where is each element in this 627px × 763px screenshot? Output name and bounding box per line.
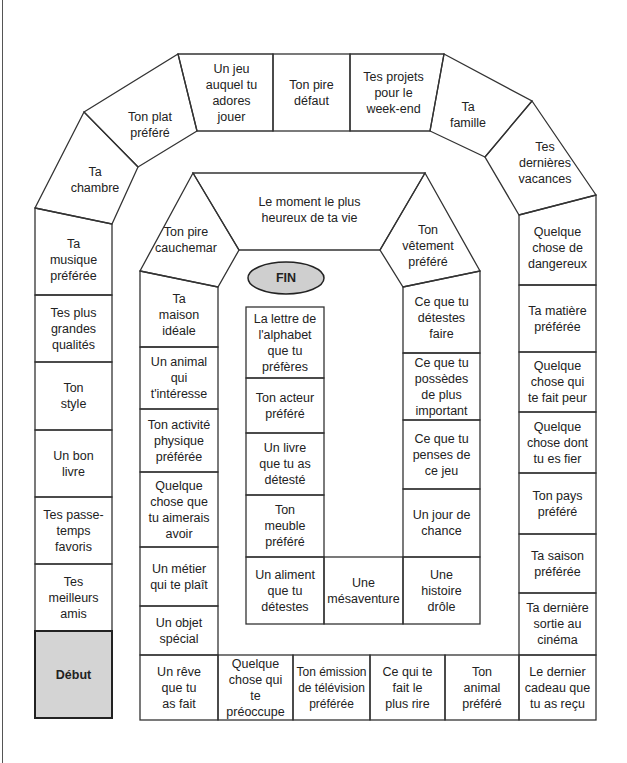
space-possedes: Ce que tu possèdes de plus important — [403, 353, 480, 420]
space-meuble: Ton meuble préféré — [246, 495, 324, 557]
space-label: Le dernier cadeau que tu as reçu — [523, 664, 593, 712]
space-label: Ton pire défaut — [282, 77, 342, 109]
space-label: Un bon livre — [46, 448, 101, 480]
space-plat: Ton plat préféré — [115, 100, 185, 150]
space-label: Quelque chose que tu aimerais avoir — [146, 478, 212, 542]
space-label: Un jour de chance — [409, 507, 475, 539]
space-metier: Un métier qui te plaît — [140, 547, 218, 606]
space-label: Tes meilleurs amis — [46, 574, 102, 622]
space-rire: Ce qui te fait le plus rire — [370, 655, 445, 720]
start-label: Début — [56, 667, 91, 683]
space-aimerais: Quelque chose que tu aimerais avoir — [140, 472, 218, 547]
space-moment: Le moment le plus heureux de ta vie — [239, 180, 380, 240]
space-detestes-faire: Ce que tu détestes faire — [403, 283, 480, 353]
space-label: Ta matière préférée — [528, 303, 588, 335]
space-vacances: Tes dernières vacances — [505, 135, 585, 190]
space-livre-deteste: Un livre que tu as détesté — [246, 433, 324, 495]
space-mesaventure: Une mésaventure — [324, 557, 403, 624]
space-pays: Ton pays préféré — [519, 473, 596, 534]
space-label: Ton style — [54, 380, 94, 412]
space-label: Le moment le plus heureux de ta vie — [254, 194, 366, 226]
space-meilleurs-amis: Tes meilleurs amis — [35, 564, 112, 631]
space-cauchemar: Ton pire cauchemar — [150, 212, 222, 267]
space-bon-livre: Un bon livre — [35, 430, 112, 497]
space-label: Ce que tu penses de ce jeu — [411, 431, 473, 479]
space-projets: Tes projets pour le week-end — [350, 54, 437, 131]
space-label: Quelque chose dont tu es fier — [524, 419, 592, 467]
finish-space: FIN — [248, 262, 324, 294]
space-vetement: Ton vêtement préféré — [393, 218, 463, 273]
space-label: Ta maison idéale — [154, 291, 204, 339]
space-chambre: Ta chambre — [60, 155, 130, 205]
space-reve: Un rêve que tu as fait — [140, 655, 218, 720]
space-label: Ton activité physique préférée — [142, 417, 216, 465]
space-aliment: Un aliment que tu détestes — [246, 557, 324, 624]
space-label: Ta saison préférée — [527, 548, 589, 580]
space-peur: Quelque chose qui te fait peur — [519, 352, 596, 412]
finish-label: FIN — [276, 270, 296, 286]
space-acteur: Ton acteur préféré — [246, 378, 324, 433]
space-label: Ta dernière sortie au cinéma — [522, 600, 594, 648]
space-label: Un métier qui te plaît — [149, 561, 209, 593]
space-label: Ce qui te fait le plus rire — [380, 664, 436, 712]
start-space: Début — [35, 631, 112, 718]
space-label: Quelque chose de dangereux — [526, 224, 590, 272]
space-label: Un rêve que tu as fait — [154, 664, 204, 712]
space-chance: Un jour de chance — [403, 489, 480, 557]
space-label: Quelque chose qui te fait peur — [525, 358, 591, 406]
space-label: Ta famille — [443, 99, 493, 131]
space-jeu: Un jeu auquel tu adores jouer — [190, 54, 273, 131]
space-famille: Ta famille — [438, 90, 498, 140]
space-label: Ton plat préféré — [120, 109, 180, 141]
space-label: La lettre de l'alphabet que tu préfères — [249, 311, 321, 375]
space-label: Ta chambre — [65, 164, 125, 196]
space-label: Ton pire cauchemar — [152, 224, 220, 256]
game-board: Ta musique préférée Tes plus grandes qua… — [0, 0, 627, 763]
space-histoire: Une histoire drôle — [403, 557, 480, 624]
space-label: Quelque chose qui te préoccupe — [223, 656, 289, 720]
space-fier: Quelque chose dont tu es fier — [519, 412, 596, 473]
space-emission: Ton émission de télévision préférée — [293, 655, 370, 720]
space-maison: Ta maison idéale — [140, 283, 218, 347]
space-label: Un animal qui t'intéresse — [146, 354, 212, 402]
space-defaut: Ton pire défaut — [273, 54, 350, 131]
space-label: Ton émission de télévision préférée — [293, 664, 370, 712]
space-label: Ce que tu possèdes de plus important — [411, 355, 473, 419]
space-cadeau: Le dernier cadeau que tu as reçu — [519, 655, 596, 720]
space-qualites: Tes plus grandes qualités — [35, 295, 112, 362]
space-animal-prefere: Ton animal préféré — [445, 655, 519, 720]
space-label: Ta musique préférée — [43, 236, 105, 284]
space-label: Un livre que tu as détesté — [253, 440, 317, 488]
space-lettre: La lettre de l'alphabet que tu préfères — [246, 307, 324, 378]
space-label: Tes passe-temps favoris — [39, 507, 109, 555]
space-animal-interesse: Un animal qui t'intéresse — [140, 347, 218, 409]
space-activite: Ton activité physique préférée — [140, 409, 218, 472]
space-musique: Ta musique préférée — [35, 224, 112, 295]
space-label: Une mésaventure — [324, 575, 403, 607]
space-label: Ce que tu détestes faire — [411, 294, 473, 342]
space-label: Ton vêtement préféré — [398, 222, 458, 270]
space-label: Un aliment que tu détestes — [252, 567, 318, 615]
space-label: Tes dernières vacances — [513, 139, 577, 187]
space-cinema: Ta dernière sortie au cinéma — [519, 593, 596, 655]
space-penses: Ce que tu penses de ce jeu — [403, 420, 480, 489]
space-label: Un jeu auquel tu adores jouer — [202, 61, 262, 125]
space-objet: Un objet spécial — [140, 606, 218, 655]
space-label: Ton meuble préféré — [260, 502, 310, 550]
space-label: Ton pays préféré — [527, 488, 589, 520]
space-label: Ton animal préféré — [457, 664, 507, 712]
space-label: Ton acteur préféré — [250, 390, 320, 422]
space-saison: Ta saison préférée — [519, 534, 596, 593]
space-passe-temps: Tes passe-temps favoris — [35, 497, 112, 564]
space-label: Un objet spécial — [151, 615, 207, 647]
space-label: Tes projets pour le week-end — [361, 69, 427, 117]
space-dangereux: Quelque chose de dangereux — [519, 210, 596, 285]
space-style: Ton style — [35, 362, 112, 430]
space-matiere: Ta matière préférée — [519, 285, 596, 352]
space-preoccupe: Quelque chose qui te préoccupe — [218, 655, 293, 720]
space-label: Une histoire drôle — [417, 567, 467, 615]
space-label: Tes plus grandes qualités — [43, 305, 105, 353]
